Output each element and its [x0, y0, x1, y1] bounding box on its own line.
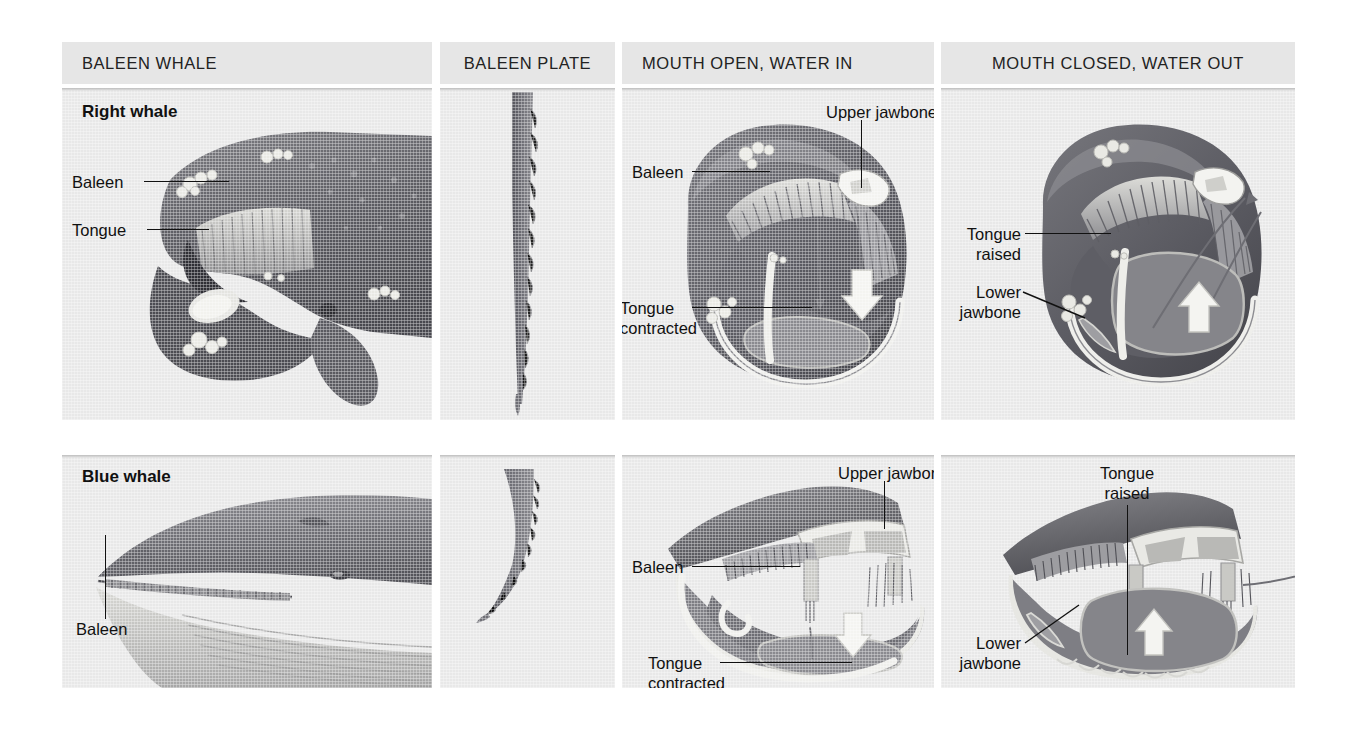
leader-tongue	[147, 229, 209, 230]
panel-blue-whale-mouth-open: Baleen Upper jawbone Tongue contracted	[622, 455, 934, 688]
leader-tongue-contracted	[720, 662, 852, 663]
leader-baleen	[692, 566, 800, 567]
panel-blue-whale-head: Blue whale Baleen	[62, 455, 432, 688]
label-upper-jawbone: Upper jawbone	[838, 463, 934, 483]
blue-whale-illustration	[62, 455, 432, 688]
column-header-label: MOUTH CLOSED, WATER OUT	[992, 54, 1244, 73]
right-whale-mouth-closed-illustration	[1003, 88, 1295, 420]
column-header-label: BALEEN WHALE	[62, 54, 217, 73]
label-tongue-raised: Tongue raised	[941, 224, 1021, 264]
panel-blue-whale-baleen-plate	[440, 455, 615, 688]
label-baleen: Baleen	[72, 172, 123, 192]
leader-upper-jawbone	[861, 120, 862, 188]
leader-lower-jawbone	[1023, 276, 1093, 322]
label-baleen: Baleen	[632, 557, 683, 577]
panel-right-whale-mouth-closed: Tongue raised Lower jawbone	[941, 88, 1295, 420]
baleen-plate-blue-whale-illustration	[440, 455, 615, 688]
leader-lower-jawbone	[1023, 605, 1087, 651]
label-lower-jawbone: Lower jawbone	[941, 282, 1021, 322]
column-header-baleen-plate: BALEEN PLATE	[440, 42, 615, 84]
baleen-whale-figure: BALEEN WHALE BALEEN PLATE MOUTH OPEN, WA…	[0, 0, 1355, 746]
row-title-blue-whale: Blue whale	[82, 467, 171, 487]
label-tongue: Tongue	[72, 220, 126, 240]
leader-baleen	[105, 535, 106, 619]
leader-baleen	[144, 181, 229, 182]
column-header-mouth-closed: MOUTH CLOSED, WATER OUT	[941, 42, 1295, 84]
panel-right-whale-baleen-plate	[440, 88, 615, 420]
label-tongue-contracted: Tongue contracted	[622, 298, 697, 338]
leader-upper-jawbone	[884, 481, 885, 529]
leader-baleen	[692, 171, 770, 172]
panel-blue-whale-mouth-closed: Tongue raised Lower jawbone	[941, 455, 1295, 688]
right-whale-head-illustration	[62, 88, 432, 420]
label-tongue-raised: Tongue raised	[1067, 463, 1187, 503]
panel-right-whale-head: Right whale Baleen Tongue	[62, 88, 432, 420]
label-baleen: Baleen	[76, 619, 127, 639]
row-title-right-whale: Right whale	[82, 102, 177, 122]
label-upper-jawbone: Upper jawbone	[826, 102, 934, 122]
label-lower-jawbone: Lower jawbone	[941, 633, 1021, 673]
right-whale-mouth-open-illustration	[622, 88, 934, 420]
column-header-label: BALEEN PLATE	[464, 54, 591, 73]
label-baleen: Baleen	[632, 162, 683, 182]
column-header-mouth-open: MOUTH OPEN, WATER IN	[622, 42, 934, 84]
leader-tongue-raised	[1127, 505, 1128, 655]
label-tongue-contracted: Tongue contracted	[648, 653, 725, 688]
baleen-plate-right-whale-illustration	[440, 88, 615, 420]
column-header-label: MOUTH OPEN, WATER IN	[622, 54, 853, 73]
panel-right-whale-mouth-open: Baleen Upper jawbone Tongue contracted	[622, 88, 934, 420]
column-header-baleen-whale: BALEEN WHALE	[62, 42, 432, 84]
leader-tongue-raised	[1025, 233, 1111, 234]
leader-tongue-contracted	[692, 307, 812, 308]
